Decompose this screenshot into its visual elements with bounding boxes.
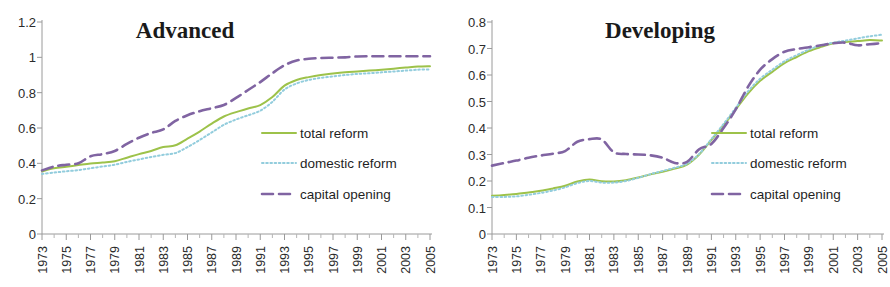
y-tick-label: 0 (29, 227, 36, 242)
series-line-domestic-reform (492, 35, 882, 197)
y-tick-label: 0.1 (468, 201, 486, 216)
y-tick-label: 0.4 (18, 156, 36, 171)
x-tick-label: 1975 (60, 246, 74, 274)
chart-title: Advanced (136, 18, 235, 43)
legend-label-capital-opening: capital opening (750, 187, 841, 202)
x-tick-label: 1985 (632, 246, 646, 274)
x-tick-label: 1993 (729, 246, 743, 274)
legend-label-total-reform: total reform (750, 126, 818, 141)
y-tick-label: 1 (29, 50, 36, 65)
x-tick-label: 1985 (181, 246, 195, 274)
x-tick-label: 1979 (108, 246, 122, 274)
x-tick-label: 1997 (778, 246, 792, 274)
y-tick-label: 0.8 (18, 86, 36, 101)
x-tick-label: 1999 (802, 246, 816, 274)
y-tick-label: 0.7 (468, 42, 486, 57)
chart-title: Developing (605, 18, 715, 43)
y-tick-label: 0.4 (468, 121, 486, 136)
x-tick-label: 1983 (607, 246, 621, 274)
x-tick-label: 1981 (583, 246, 597, 274)
x-tick-label: 1987 (205, 246, 219, 274)
x-tick-label: 2005 (876, 246, 890, 274)
y-tick-label: 0 (479, 227, 486, 242)
x-tick-label: 1987 (656, 246, 670, 274)
x-tick-label: 1991 (705, 246, 719, 274)
x-tick-label: 1993 (278, 246, 292, 274)
y-tick-label: 1.2 (18, 15, 36, 30)
x-tick-label: 1999 (351, 246, 365, 274)
x-tick-label: 1977 (84, 246, 98, 274)
chart-svg-developing: 00.10.20.30.40.50.60.70.8197319751977197… (445, 0, 890, 287)
chart-figure: 00.20.40.60.811.219731975197719791981198… (0, 0, 890, 287)
x-tick-label: 1989 (681, 246, 695, 274)
x-tick-label: 1973 (36, 246, 50, 274)
y-tick-label: 0.6 (18, 121, 36, 136)
x-tick-label: 1983 (157, 246, 171, 274)
x-tick-label: 1979 (559, 246, 573, 274)
x-tick-label: 1995 (302, 246, 316, 274)
chart-panel-developing: 00.10.20.30.40.50.60.70.8197319751977197… (445, 0, 890, 287)
x-tick-label: 1981 (133, 246, 147, 274)
y-tick-label: 0.2 (468, 174, 486, 189)
x-tick-label: 1975 (510, 246, 524, 274)
x-tick-label: 2005 (424, 246, 438, 274)
series-line-total-reform (492, 40, 882, 196)
legend-label-total-reform: total reform (300, 126, 368, 141)
legend-label-domestic-reform: domestic reform (750, 156, 847, 171)
x-tick-label: 1997 (327, 246, 341, 274)
x-tick-label: 1977 (534, 246, 548, 274)
chart-svg-advanced: 00.20.40.60.811.219731975197719791981198… (0, 0, 445, 287)
y-tick-label: 0.8 (468, 15, 486, 30)
x-tick-label: 2001 (827, 246, 841, 274)
chart-panel-advanced: 00.20.40.60.811.219731975197719791981198… (0, 0, 445, 287)
y-tick-label: 0.5 (468, 95, 486, 110)
x-tick-label: 1989 (230, 246, 244, 274)
x-tick-label: 1991 (254, 246, 268, 274)
x-tick-label: 1995 (754, 246, 768, 274)
x-tick-label: 2001 (375, 246, 389, 274)
y-tick-label: 0.3 (468, 148, 486, 163)
x-tick-label: 1973 (486, 246, 500, 274)
x-tick-label: 2003 (399, 246, 413, 274)
legend-label-domestic-reform: domestic reform (300, 156, 397, 171)
y-tick-label: 0.2 (18, 192, 36, 207)
x-tick-label: 2003 (851, 246, 865, 274)
y-tick-label: 0.6 (468, 68, 486, 83)
series-line-capital-opening (492, 43, 882, 166)
legend-label-capital-opening: capital opening (300, 187, 391, 202)
